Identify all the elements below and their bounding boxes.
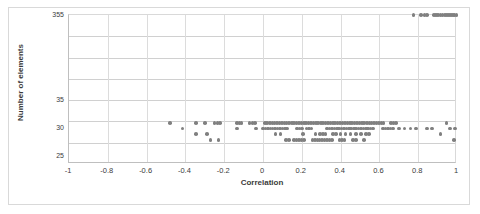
- scatter-point: [359, 132, 363, 136]
- scatter-point: [425, 127, 429, 131]
- scatter-point: [302, 138, 306, 142]
- y-axis-tick-label: 355: [4, 11, 64, 18]
- scatter-point: [168, 121, 172, 125]
- scatter-point: [181, 127, 185, 131]
- scatter-point: [391, 127, 395, 131]
- y-axis-tick-label: 25: [4, 152, 64, 159]
- x-axis-tick-label: 0.2: [281, 166, 321, 175]
- scatter-point: [235, 127, 239, 131]
- scatter-point: [354, 132, 358, 136]
- scatter-point: [324, 132, 328, 136]
- scatter-point: [354, 138, 358, 142]
- x-axis-tick-label: -0.6: [126, 166, 166, 175]
- scatter-point: [425, 13, 429, 17]
- scatter-point: [240, 121, 244, 125]
- y-axis-title: Number of elements: [16, 23, 25, 143]
- scatter-point: [409, 127, 413, 131]
- scatter-point: [203, 121, 207, 125]
- scatter-point: [445, 121, 449, 125]
- scatter-point: [285, 127, 289, 131]
- scatter-point: [448, 127, 452, 131]
- scatter-point: [414, 127, 418, 131]
- scatter-point: [274, 132, 278, 136]
- scatter-point: [194, 132, 198, 136]
- scatter-point: [254, 127, 258, 131]
- scatter-point: [371, 127, 375, 131]
- chart-figure: 355353025 Number of elements -1-0.8-0.6-…: [0, 0, 480, 214]
- x-axis-tick-label: 0: [242, 166, 282, 175]
- scatter-point: [253, 121, 257, 125]
- scatter-point: [205, 132, 209, 136]
- y-axis-tick-labels: 355353025: [0, 0, 64, 214]
- y-axis-tick-label: 35: [4, 96, 64, 103]
- scatter-point: [287, 138, 291, 142]
- x-axis-tick-label: -0.8: [87, 166, 127, 175]
- scatter-point: [194, 121, 198, 125]
- scatter-point: [339, 132, 343, 136]
- x-axis-tick-label: -1: [48, 166, 88, 175]
- scatter-point: [455, 13, 459, 17]
- scatter-point: [310, 127, 314, 131]
- scatter-point: [343, 138, 347, 142]
- scatter-point: [344, 132, 348, 136]
- y-axis-tick-label: 30: [4, 124, 64, 131]
- scatter-point: [367, 132, 371, 136]
- scatter-point: [412, 13, 416, 17]
- x-axis-tick-label: 0.8: [397, 166, 437, 175]
- scatter-point: [301, 132, 305, 136]
- x-axis-tick-label: 0.4: [320, 166, 360, 175]
- scatter-point: [330, 138, 334, 142]
- scatter-point: [314, 132, 318, 136]
- scatter-point: [403, 127, 407, 131]
- x-axis-title: Correlation: [68, 178, 456, 187]
- scatter-point: [439, 132, 443, 136]
- x-axis-tick-label: 1: [436, 166, 476, 175]
- scatter-point: [209, 138, 213, 142]
- scatter-point: [217, 138, 221, 142]
- x-axis-tick-label: -0.2: [203, 166, 243, 175]
- x-axis-tick-label: -0.4: [164, 166, 204, 175]
- plot-area: [68, 14, 456, 163]
- scatter-point: [334, 132, 338, 136]
- scatter-points-layer: [69, 15, 455, 162]
- scatter-point: [362, 138, 366, 142]
- scatter-point: [300, 127, 304, 131]
- scatter-point: [394, 121, 398, 125]
- scatter-point: [430, 127, 434, 131]
- scatter-point: [349, 132, 353, 136]
- x-axis-tick-label: 0.6: [358, 166, 398, 175]
- scatter-point: [382, 121, 386, 125]
- scatter-point: [397, 127, 401, 131]
- scatter-point: [452, 138, 456, 142]
- scatter-point: [218, 121, 222, 125]
- scatter-point: [279, 132, 283, 136]
